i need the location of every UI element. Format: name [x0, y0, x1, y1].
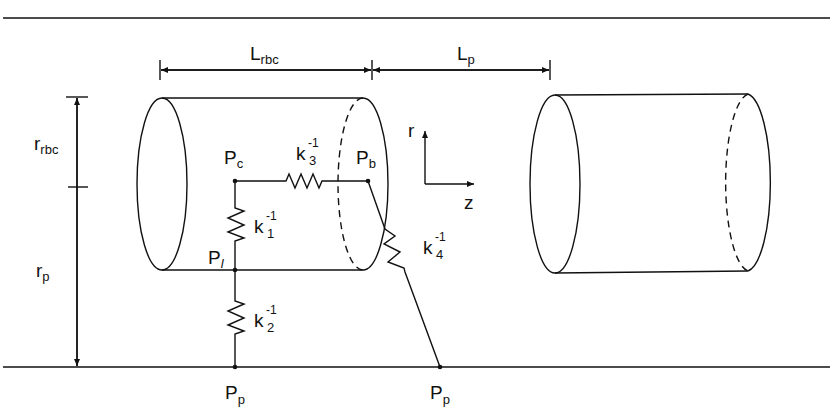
rbc-cylinder-2	[530, 94, 770, 273]
label-pc: Pc	[224, 147, 244, 171]
svg-text:2: 2	[267, 320, 274, 335]
svg-text:-1: -1	[266, 209, 277, 223]
label-k4: k -1 4	[423, 230, 446, 262]
svg-text:z: z	[464, 192, 474, 213]
label-k3: k -1 3	[296, 136, 319, 168]
svg-text:r: r	[408, 120, 415, 141]
node-pl	[233, 268, 238, 273]
svg-text:Lp: Lp	[457, 43, 475, 67]
dimension-radial: rrbc rp	[34, 97, 88, 366]
rbc-capillary-diagram: Lrbc Lp rrbc rp r z	[0, 0, 833, 420]
svg-text:k: k	[296, 143, 306, 164]
svg-text:3: 3	[309, 153, 316, 168]
label-pl: Pl	[208, 247, 225, 271]
svg-text:4: 4	[436, 247, 443, 262]
label-r-p: rp	[36, 260, 50, 284]
label-pp-1: Pp	[225, 382, 245, 407]
dimension-l-p: Lp	[373, 43, 550, 80]
svg-text:Lrbc: Lrbc	[250, 43, 279, 67]
svg-text:-1: -1	[435, 230, 446, 244]
label-r-rbc: rrbc	[34, 133, 59, 157]
node-pc	[233, 179, 238, 184]
svg-text:k: k	[423, 237, 433, 258]
rbc-cylinder-1	[137, 98, 388, 270]
label-k1: k -1 1	[254, 209, 277, 241]
coordinate-axes: r z	[408, 120, 474, 213]
svg-text:1: 1	[267, 226, 274, 241]
label-pb: Pb	[356, 147, 376, 171]
svg-text:-1: -1	[266, 303, 277, 317]
node-pp-2	[438, 365, 443, 370]
node-pb	[366, 179, 371, 184]
label-pp-2: Pp	[430, 382, 450, 407]
dimension-l-rbc: Lrbc	[160, 43, 372, 80]
svg-text:-1: -1	[308, 136, 319, 150]
svg-text:k: k	[254, 310, 264, 331]
svg-text:k: k	[254, 216, 264, 237]
label-k2: k -1 2	[254, 303, 277, 335]
resistor-network	[228, 174, 442, 369]
node-pp-1	[233, 365, 238, 370]
